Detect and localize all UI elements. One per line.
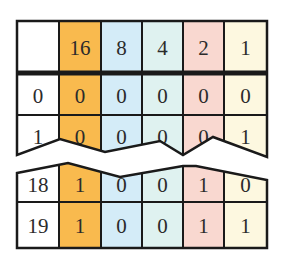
header-cell-4: 4 — [157, 36, 168, 60]
bit-cell: 1 — [75, 214, 86, 238]
row-index-cell: 0 — [33, 84, 44, 108]
bit-cell: 1 — [75, 173, 86, 197]
header-cell-16: 16 — [70, 36, 91, 60]
bit-cell: 0 — [75, 84, 86, 108]
bit-cell: 0 — [157, 84, 168, 108]
bit-cell: 0 — [116, 214, 127, 238]
bit-cell: 0 — [116, 125, 127, 149]
bit-cell: 1 — [240, 214, 251, 238]
bit-cell: 0 — [116, 84, 127, 108]
header-cell-2: 2 — [198, 36, 209, 60]
bit-cell: 1 — [198, 173, 209, 197]
row-index-cell: 18 — [28, 173, 49, 197]
bit-cell: 0 — [198, 84, 209, 108]
header-cell-1: 1 — [240, 36, 251, 60]
row-index-cell: 19 — [28, 214, 49, 238]
header-cell-8: 8 — [116, 36, 127, 60]
bit-cell: 1 — [198, 214, 209, 238]
bit-cell: 0 — [157, 173, 168, 197]
bit-cell: 1 — [240, 125, 251, 149]
binary-table-diagram: 16 8 4 2 1 0 0 0 0 0 0 1 0 0 0 0 1 — [0, 0, 286, 263]
bit-cell: 0 — [240, 84, 251, 108]
bit-cell: 0 — [157, 214, 168, 238]
